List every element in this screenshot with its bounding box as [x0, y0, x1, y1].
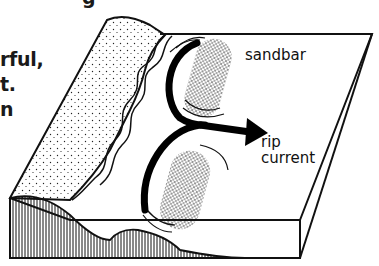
- beach-area: [10, 17, 165, 200]
- rip-current-illustration: [0, 0, 379, 266]
- current-label: current: [261, 151, 315, 167]
- sandbar-label: sandbar: [245, 48, 306, 64]
- rip-current-stem: [200, 125, 250, 132]
- seabed-cross-section: [10, 196, 245, 258]
